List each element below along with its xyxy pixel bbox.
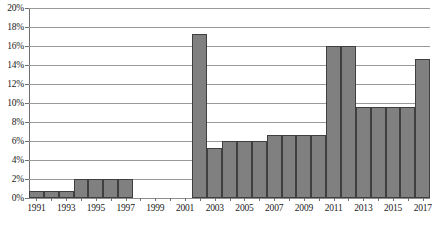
x-axis-slot: 1995	[88, 201, 103, 221]
x-axis-tick	[111, 198, 112, 201]
x-axis-tick	[51, 198, 52, 201]
bar	[326, 46, 341, 198]
y-axis-label: 2%	[12, 174, 24, 184]
x-axis-tick	[126, 198, 127, 201]
y-axis-label: 6%	[12, 136, 24, 146]
bar-slot	[29, 8, 44, 198]
x-axis-label: 2001	[176, 203, 194, 213]
bar-slot	[311, 8, 326, 198]
bar-slot	[252, 8, 267, 198]
x-axis-slot: 2001	[178, 201, 193, 221]
bar-slot	[133, 8, 148, 198]
bar	[400, 107, 415, 198]
x-axis-label: 1999	[146, 203, 164, 213]
x-axis-tick	[155, 198, 156, 201]
bar	[207, 148, 222, 198]
x-axis-slot: 2015	[386, 201, 401, 221]
x-axis-slot: 2011	[326, 201, 341, 221]
x-axis-slot: 2009	[296, 201, 311, 221]
x-axis-tick	[289, 198, 290, 201]
y-axis-label: 20%	[7, 3, 24, 13]
x-axis-tick	[230, 198, 231, 201]
bar	[341, 46, 356, 198]
x-axis-slot: 2017	[415, 201, 430, 221]
x-axis-label: 2009	[295, 203, 313, 213]
bar	[282, 135, 297, 198]
bar-slot	[341, 8, 356, 198]
bar	[237, 141, 252, 198]
x-axis-tick	[140, 198, 141, 201]
bar	[222, 141, 237, 198]
x-axis-tick	[170, 198, 171, 201]
y-axis-label: 14%	[7, 60, 24, 70]
x-axis-label: 2007	[265, 203, 283, 213]
bar	[296, 135, 311, 198]
y-axis-label: 16%	[7, 41, 24, 51]
bar-chart: 20%18%16%14%12%10%8%6%4%2%0% 19911993199…	[0, 0, 436, 229]
x-axis-slot: 1999	[148, 201, 163, 221]
x-axis: 1991199319951997199920012003200520072009…	[29, 201, 430, 221]
x-axis-slot: 1993	[59, 201, 74, 221]
bar	[192, 34, 207, 198]
x-axis-slot: 1997	[118, 201, 133, 221]
x-axis-label: 2017	[414, 203, 432, 213]
x-axis-label: 2015	[384, 203, 402, 213]
x-axis-tick	[185, 198, 186, 201]
bar-slot	[400, 8, 415, 198]
x-axis-tick	[259, 198, 260, 201]
bar-slot	[371, 8, 386, 198]
bar-slot	[59, 8, 74, 198]
bar-slot	[237, 8, 252, 198]
x-axis-tick	[96, 198, 97, 201]
bar-slot	[88, 8, 103, 198]
bar-slot	[44, 8, 59, 198]
bar	[267, 135, 282, 198]
x-axis-tick	[363, 198, 364, 201]
x-axis-label: 2013	[354, 203, 372, 213]
x-axis-tick	[378, 198, 379, 201]
bar	[311, 135, 326, 198]
x-axis-tick	[244, 198, 245, 201]
x-axis-tick	[423, 198, 424, 201]
x-axis-label: 2003	[206, 203, 224, 213]
bar	[386, 107, 401, 198]
x-axis-tick	[408, 198, 409, 201]
x-axis-tick	[215, 198, 216, 201]
bar	[118, 179, 133, 198]
x-axis-slot: 1991	[29, 201, 44, 221]
y-axis: 20%18%16%14%12%10%8%6%4%2%0%	[0, 0, 29, 229]
x-axis-label: 2005	[235, 203, 253, 213]
x-axis-slot: 2005	[237, 201, 252, 221]
x-axis-label: 2011	[325, 203, 343, 213]
bar-slot	[148, 8, 163, 198]
x-axis-tick	[66, 198, 67, 201]
x-axis-tick	[393, 198, 394, 201]
x-axis-slot: 2007	[267, 201, 282, 221]
bar	[415, 59, 430, 198]
x-axis-tick	[274, 198, 275, 201]
bar-slot	[282, 8, 297, 198]
x-axis-label: 1991	[27, 203, 45, 213]
x-axis-label: 1993	[57, 203, 75, 213]
bar-slot	[74, 8, 89, 198]
bar-slot	[103, 8, 118, 198]
bar	[103, 179, 118, 198]
bar	[74, 179, 89, 198]
bar-slot	[118, 8, 133, 198]
bar-slot	[296, 8, 311, 198]
bar	[252, 141, 267, 198]
y-axis-label: 8%	[12, 117, 24, 127]
x-axis-label: 1997	[116, 203, 134, 213]
bar-slot	[192, 8, 207, 198]
bar-slot	[207, 8, 222, 198]
x-axis-tick	[334, 198, 335, 201]
bar-slot	[178, 8, 193, 198]
bar-slot	[163, 8, 178, 198]
bar-slot	[415, 8, 430, 198]
bar-slot	[267, 8, 282, 198]
y-axis-label: 4%	[12, 155, 24, 165]
bar-slot	[326, 8, 341, 198]
bar-slot	[356, 8, 371, 198]
y-axis-label: 12%	[7, 79, 24, 89]
x-axis-slot: 2013	[356, 201, 371, 221]
